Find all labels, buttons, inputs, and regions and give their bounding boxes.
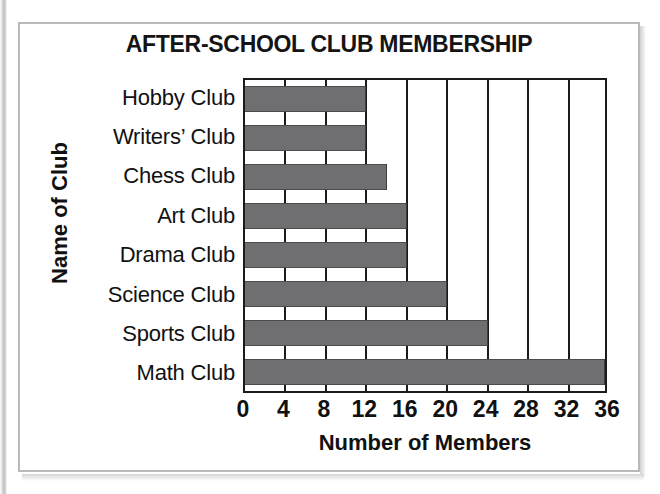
bar [245,125,366,151]
plot-area [243,78,607,393]
page-edge-strip [0,0,7,494]
bar [245,242,407,268]
category-label: Art Club [55,196,239,235]
bar [245,281,447,307]
x-tick-label: 0 [237,396,250,423]
x-tick-label: 4 [277,396,290,423]
bar-series [245,80,605,391]
category-label: Writers’ Club [55,117,239,156]
bar-row [245,119,605,158]
bar [245,359,605,385]
x-tick-labels: 04812162024283236 [243,396,607,426]
bar-row [245,236,605,275]
x-tick-label: 16 [392,396,418,423]
x-tick-label: 32 [554,396,580,423]
figure-shadow-right [640,26,646,476]
category-label: Math Club [55,354,239,393]
category-labels: Hobby ClubWriters’ ClubChess ClubArt Clu… [55,78,239,393]
x-tick-label: 36 [594,396,620,423]
bar [245,320,488,346]
category-label: Drama Club [55,236,239,275]
x-tick-label: 20 [432,396,458,423]
category-label: Chess Club [55,157,239,196]
bar [245,203,407,229]
bar [245,164,387,190]
x-tick-label: 8 [317,396,330,423]
bar-row [245,80,605,119]
x-tick-label: 28 [513,396,539,423]
bar-row [245,274,605,313]
x-tick-label: 12 [352,396,378,423]
bar-row [245,352,605,391]
category-label: Hobby Club [55,78,239,117]
x-axis-title: Number of Members [243,430,607,456]
chart-title: AFTER-SCHOOL CLUB MEMBERSHIP [18,31,640,58]
bar [245,86,366,112]
category-label: Science Club [55,275,239,314]
bar-row [245,313,605,352]
category-label: Sports Club [55,314,239,353]
bar-row [245,197,605,236]
bar-row [245,158,605,197]
x-tick-label: 24 [473,396,499,423]
figure-shadow-bottom [22,474,644,481]
